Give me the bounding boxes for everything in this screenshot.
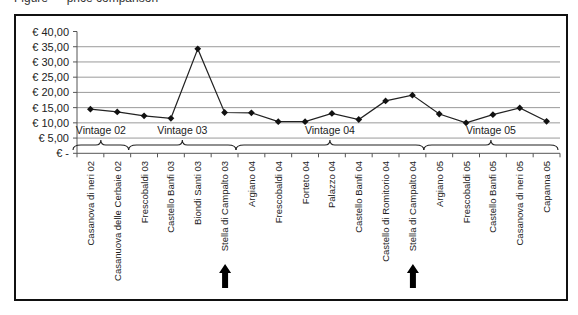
x-tick-label: Castello Banfi 04 [353, 161, 364, 233]
y-tick-label: € 15,00 [32, 102, 69, 114]
x-tick-label: Stella di Campalto 04 [407, 161, 418, 251]
vintage-brace [129, 140, 236, 150]
data-point-marker [87, 106, 94, 113]
x-tick-label: Forteto 04 [300, 161, 311, 204]
y-tick-label: € 30,00 [32, 56, 69, 68]
data-point-marker [168, 115, 175, 122]
x-tick-label: Argiano 05 [434, 161, 445, 207]
price-line [90, 49, 546, 123]
x-tick-label: Frescobaldi 05 [461, 161, 472, 223]
data-point-marker [329, 110, 336, 117]
vintage-labels: Vintage 02Vintage 03Vintage 04Vintage 05 [76, 124, 516, 136]
line-chart: € -€ 5,00€ 10,00€ 15,00€ 20,00€ 25,00€ 3… [0, 0, 578, 315]
x-tick-label: Capanna 05 [541, 161, 552, 213]
data-point-marker [355, 116, 362, 123]
x-tick-label: Argiano 04 [246, 161, 257, 207]
x-tick-label: Frescobaldi 04 [273, 161, 284, 223]
vintage-label: Vintage 04 [305, 124, 355, 136]
up-arrow-icon [219, 264, 231, 288]
price-series [87, 45, 550, 126]
y-axis: € -€ 5,00€ 10,00€ 15,00€ 20,00€ 25,00€ 3… [32, 26, 77, 160]
y-tick-label: € 25,00 [32, 71, 69, 83]
up-arrow-icon [407, 264, 419, 288]
vintage-brace [424, 140, 558, 150]
x-tick-label: Frescobaldi 03 [139, 161, 150, 223]
data-point-marker [382, 98, 389, 105]
vintage-brace [236, 140, 424, 150]
y-tick-label: € 10,00 [32, 117, 69, 129]
x-tick-label: Castello di Romitorio 04 [380, 161, 391, 262]
x-axis: Casanova di neri 02Casanuova delle Cerba… [77, 153, 560, 281]
data-point-marker [275, 118, 282, 125]
data-point-marker [114, 108, 121, 115]
data-point-marker [543, 118, 550, 125]
data-point-marker [516, 105, 523, 112]
data-point-marker [221, 109, 228, 116]
highlight-arrows [219, 264, 419, 288]
x-tick-label: Castello Banfi 05 [487, 161, 498, 233]
x-tick-label: Stella di Campalto 03 [219, 161, 230, 251]
x-tick-label: Castello Banfi 03 [165, 161, 176, 233]
y-tick-label: € 40,00 [32, 26, 69, 38]
vintage-brace [73, 140, 129, 150]
data-point-marker [490, 111, 497, 118]
x-tick-label: Casanova di neri 02 [85, 161, 96, 246]
data-point-marker [248, 109, 255, 116]
y-tick-label: € 35,00 [32, 41, 69, 53]
vintage-braces [73, 140, 558, 150]
data-point-marker [141, 112, 148, 119]
x-tick-label: Casanuova delle Cerbaie 02 [112, 161, 123, 281]
y-tick-label: € - [56, 147, 69, 159]
y-tick-label: € 5,00 [38, 132, 69, 144]
vintage-label: Vintage 05 [466, 124, 516, 136]
y-tick-label: € 20,00 [32, 86, 69, 98]
vintage-label: Vintage 03 [157, 124, 207, 136]
x-tick-label: Casanova di neri 05 [514, 161, 525, 246]
x-tick-label: Biondi Santi 03 [192, 161, 203, 225]
x-tick-label: Palazzo 04 [326, 161, 337, 208]
vintage-label: Vintage 02 [76, 124, 126, 136]
